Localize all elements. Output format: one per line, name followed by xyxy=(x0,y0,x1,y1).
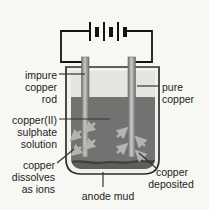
label-line: dissolves xyxy=(12,171,55,183)
label-anode-mud: anode mud xyxy=(82,190,135,202)
label-pure-copper: pure copper xyxy=(162,81,195,105)
label-line: as ions xyxy=(22,183,55,195)
label-copper-dissolves: copper dissolves as ions xyxy=(12,159,56,195)
label-impure-copper-rod: impure copper rod xyxy=(25,69,58,105)
label-line: copper(II) xyxy=(12,114,57,126)
label-line: copper xyxy=(162,93,195,105)
diagram-canvas: impure copper rod copper(II) sulphate so… xyxy=(0,0,209,210)
label-line: sulphate xyxy=(17,126,57,138)
pure-copper-electrode xyxy=(128,57,136,157)
label-line: copper xyxy=(25,81,58,93)
electrolysis-diagram: impure copper rod copper(II) sulphate so… xyxy=(0,0,209,210)
circuit-wires xyxy=(61,31,152,62)
label-line: anode mud xyxy=(82,190,135,202)
label-line: rod xyxy=(42,93,57,105)
label-line: copper xyxy=(156,166,189,178)
label-line: copper xyxy=(23,159,56,171)
label-copper-sulphate-solution: copper(II) sulphate solution xyxy=(12,114,57,150)
label-copper-deposited: copper deposited xyxy=(148,166,194,190)
label-line: solution xyxy=(21,138,57,150)
label-line: pure xyxy=(162,81,183,93)
impure-copper-rod-electrode xyxy=(82,57,90,157)
battery-icon xyxy=(90,22,125,41)
label-line: deposited xyxy=(148,178,194,190)
label-line: impure xyxy=(25,69,57,81)
